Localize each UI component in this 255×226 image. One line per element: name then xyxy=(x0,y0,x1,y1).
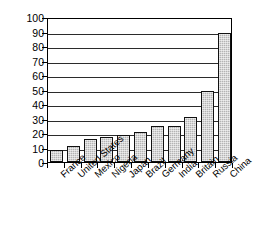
x-axis-tick-label: Brazil xyxy=(143,172,149,179)
x-axis-tick-label: France xyxy=(59,172,65,179)
y-axis-tick-label: 10 xyxy=(20,143,44,154)
x-axis-tick-label: India xyxy=(177,172,183,179)
y-axis-tick-label: 90 xyxy=(20,27,44,38)
x-axis-tick-label: China xyxy=(227,172,233,179)
x-axis-tick-label: Mexico xyxy=(93,172,99,179)
y-axis-tick-label: 60 xyxy=(20,71,44,82)
chart-figure: Union Membership (%) 0102030405060708090… xyxy=(0,0,255,226)
y-axis-tick-label: 20 xyxy=(20,129,44,140)
x-axis-tick-label: Japan xyxy=(126,172,132,179)
y-axis-tick-label: 30 xyxy=(20,114,44,125)
x-axis-tick-label: Russia xyxy=(211,172,217,179)
x-axis-tick-label: Germany xyxy=(160,172,166,179)
x-axis-tick-label: Nigeria xyxy=(110,172,116,179)
x-axis-tick-mark xyxy=(47,163,48,168)
bar-series xyxy=(48,19,231,162)
bar xyxy=(218,33,231,162)
bar xyxy=(50,150,63,162)
y-axis-tick-label: 50 xyxy=(20,85,44,96)
x-axis-tick-label: United States xyxy=(76,172,82,179)
y-axis-tick-label: 0 xyxy=(20,158,44,169)
y-axis-tick-label: 80 xyxy=(20,42,44,53)
bar xyxy=(201,91,214,162)
x-axis-tick-label: Britain xyxy=(194,172,200,179)
plot-area xyxy=(47,18,232,163)
y-axis-tick-label: 70 xyxy=(20,56,44,67)
y-axis-tick-label: 100 xyxy=(20,13,44,24)
y-axis-tick-label: 40 xyxy=(20,100,44,111)
